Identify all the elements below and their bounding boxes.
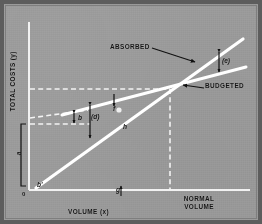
figure-border bbox=[0, 0, 262, 224]
figure-canvas: TOTAL COSTS (y) VOLUME (x) NORMAL VOLUME… bbox=[0, 0, 262, 224]
